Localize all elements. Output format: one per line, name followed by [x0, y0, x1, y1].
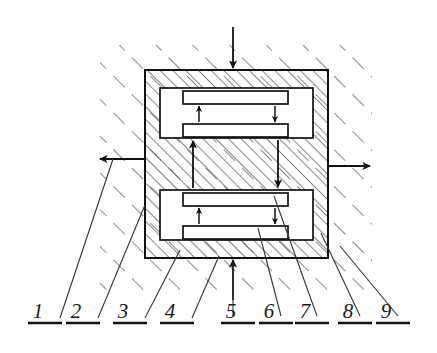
upper-chamber-bottom-plate [183, 124, 288, 137]
lower-chamber-bottom-plate [183, 226, 288, 239]
diagram-canvas: 123456789 [0, 0, 437, 353]
callout-label-2: 2 [71, 299, 82, 323]
callout-label-9: 9 [381, 299, 392, 323]
callout-labels: 123456789 [33, 299, 392, 323]
lower-chamber [160, 190, 313, 240]
callout-label-6: 6 [264, 299, 275, 323]
callout-label-7: 7 [300, 299, 312, 323]
callout-label-5: 5 [226, 299, 237, 323]
lower-chamber-top-plate [183, 193, 288, 206]
callout-label-1: 1 [33, 299, 44, 323]
technical-diagram-figure: 123456789 [0, 0, 437, 353]
callout-label-3: 3 [117, 299, 129, 323]
upper-chamber [160, 88, 313, 138]
upper-chamber-top-plate [183, 91, 288, 104]
callout-label-8: 8 [343, 299, 354, 323]
callout-label-4: 4 [165, 299, 176, 323]
